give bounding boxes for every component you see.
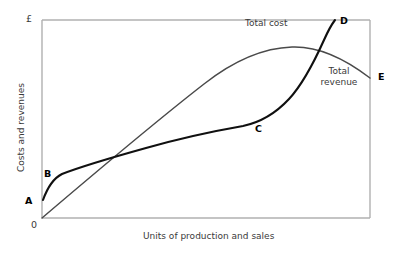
y-axis-unit-label: £ (26, 14, 32, 24)
point-label-e: E (378, 72, 385, 82)
origin-label: 0 (31, 220, 37, 230)
total-revenue-annotation-line2: revenue (316, 77, 362, 88)
y-axis-title: Costs and revenues (16, 83, 26, 172)
chart-canvas: £ 0 Costs and revenues Units of producti… (0, 0, 408, 256)
point-label-d: D (340, 16, 348, 26)
point-label-a: A (25, 196, 32, 206)
x-axis-title: Units of production and sales (143, 231, 274, 242)
point-label-c: C (255, 124, 262, 134)
total-cost-annotation: Total cost (245, 18, 288, 29)
point-label-b: B (44, 169, 51, 179)
break-even-chart-svg (0, 0, 408, 256)
total-revenue-annotation-line1: Total (316, 66, 362, 77)
